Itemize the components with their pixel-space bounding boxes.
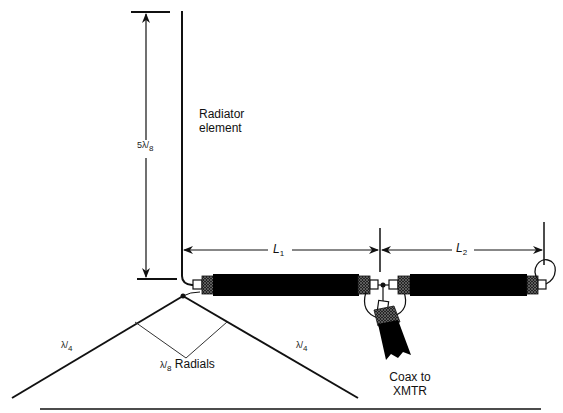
coax-section-l2 bbox=[389, 260, 555, 296]
coax-section-l1 bbox=[193, 274, 378, 296]
radiator-label: Radiator element bbox=[199, 107, 244, 135]
antenna-diagram bbox=[0, 0, 563, 413]
l1-label: L1 bbox=[273, 242, 284, 261]
vertical-dimension-label: 5λ/8 bbox=[137, 140, 153, 153]
radial-left-label: λ/4 bbox=[61, 340, 72, 353]
feedline-coax bbox=[374, 300, 411, 360]
radiator-element bbox=[182, 11, 195, 285]
coax-to-xmtr-label: Coax to XMTR bbox=[386, 370, 434, 398]
radials-label: λ/8 Radials bbox=[160, 357, 215, 376]
radial-right-label: λ/4 bbox=[296, 340, 307, 353]
l2-label: L2 bbox=[456, 241, 467, 260]
